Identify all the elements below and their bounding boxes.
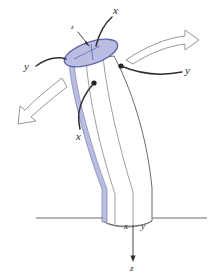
label-left-y: y (24, 61, 29, 72)
lower-left-deflection-arrow (18, 78, 67, 124)
label-lower-x: x (76, 131, 81, 142)
label-top-z: z (71, 24, 74, 31)
label-right-y: y (185, 65, 190, 76)
figure-root: x z y y x x y z (0, 0, 216, 279)
diagram-canvas (0, 0, 216, 279)
leader-left-y (36, 58, 66, 66)
label-base-x: x (124, 222, 128, 231)
column-outline (70, 56, 152, 226)
label-base-y: y (141, 222, 145, 231)
label-base-z: z (130, 264, 134, 273)
curved-column-body (70, 56, 152, 227)
base-z-axis-group (130, 225, 135, 262)
label-top-x: x (113, 5, 118, 16)
upper-right-deflection-arrow (126, 30, 199, 64)
leader-right-y (121, 66, 182, 74)
base-z-axis-arrowhead (130, 256, 135, 263)
